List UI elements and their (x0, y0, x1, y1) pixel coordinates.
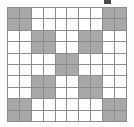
grid-cell (103, 42, 114, 52)
grid-cell (91, 99, 102, 109)
grid-cell (8, 19, 19, 29)
grid-cell (79, 88, 90, 98)
grid-cell (56, 54, 67, 64)
grid-cell (56, 76, 67, 86)
grid-cell (32, 19, 43, 29)
grid-cell (67, 88, 78, 98)
grid-cell (67, 76, 78, 86)
grid-cell (56, 88, 67, 98)
grid-cell (20, 88, 31, 98)
grid-cell (20, 65, 31, 75)
grid-cell (103, 65, 114, 75)
grid-cell (8, 88, 19, 98)
grid-cell (44, 31, 55, 41)
grid-cell (32, 31, 43, 41)
grid-cell (20, 8, 31, 18)
grid-cell (32, 65, 43, 75)
grid-cell (32, 88, 43, 98)
grid-cell (44, 19, 55, 29)
grid-cell (8, 42, 19, 52)
grid-cell (91, 88, 102, 98)
grid-cell (44, 111, 55, 121)
grid-cell (115, 31, 126, 41)
grid-cell (91, 31, 102, 41)
grid-cell (67, 8, 78, 18)
grid-cell (67, 31, 78, 41)
grid-cell (115, 65, 126, 75)
grid-cell (91, 76, 102, 86)
grid-cell (8, 31, 19, 41)
grid-cell (20, 76, 31, 86)
grid-cell (56, 31, 67, 41)
grid-cell (32, 8, 43, 18)
grid-cell (91, 54, 102, 64)
grid-cell (56, 42, 67, 52)
grid-cell (67, 19, 78, 29)
grid-cell (20, 111, 31, 121)
grid-cell (20, 42, 31, 52)
pattern-grid (7, 7, 127, 122)
grid-cell (115, 88, 126, 98)
grid-cell (8, 76, 19, 86)
grid-cell (67, 54, 78, 64)
grid-cell (32, 54, 43, 64)
grid-cell (56, 65, 67, 75)
grid-cell (56, 99, 67, 109)
grid-cell (103, 54, 114, 64)
grid-cell (103, 31, 114, 41)
grid-cell (79, 42, 90, 52)
grid-cell (56, 111, 67, 121)
grid-cell (79, 8, 90, 18)
grid-cell (115, 8, 126, 18)
grid-cell (56, 8, 67, 18)
grid-cell (8, 65, 19, 75)
grid-cell (91, 8, 102, 18)
grid-cell (67, 65, 78, 75)
grid-cell (115, 42, 126, 52)
grid-cell (103, 76, 114, 86)
grid-cell (20, 31, 31, 41)
grid-cell (103, 111, 114, 121)
grid-cell (79, 31, 90, 41)
grid-cell (103, 88, 114, 98)
grid-cell (115, 19, 126, 29)
grid-cell (20, 99, 31, 109)
grid-cell (8, 8, 19, 18)
grid-container (7, 7, 127, 122)
grid-cell (79, 54, 90, 64)
grid-cell (8, 111, 19, 121)
grid-cell (103, 19, 114, 29)
grid-cell (79, 19, 90, 29)
grid-cell (115, 54, 126, 64)
grid-cell (67, 99, 78, 109)
grid-cell (67, 111, 78, 121)
grid-cell (44, 65, 55, 75)
grid-cell (115, 111, 126, 121)
grid-cell (56, 19, 67, 29)
grid-cell (103, 99, 114, 109)
grid-cell (79, 99, 90, 109)
grid-cell (91, 65, 102, 75)
grid-cell (79, 111, 90, 121)
grid-cell (91, 19, 102, 29)
grid-cell (115, 76, 126, 86)
grid-cell (79, 65, 90, 75)
grid-cell (32, 99, 43, 109)
grid-cell (44, 99, 55, 109)
grid-cell (91, 111, 102, 121)
top-tick-mark-icon (104, 0, 111, 4)
grid-cell (44, 76, 55, 86)
grid-cell (44, 42, 55, 52)
grid-cell (103, 8, 114, 18)
grid-cell (44, 88, 55, 98)
grid-cell (8, 99, 19, 109)
grid-cell (8, 54, 19, 64)
grid-cell (32, 111, 43, 121)
grid-cell (44, 8, 55, 18)
figure-canvas (0, 0, 134, 127)
grid-cell (67, 42, 78, 52)
grid-cell (20, 19, 31, 29)
grid-cell (91, 42, 102, 52)
grid-cell (32, 42, 43, 52)
grid-cell (32, 76, 43, 86)
